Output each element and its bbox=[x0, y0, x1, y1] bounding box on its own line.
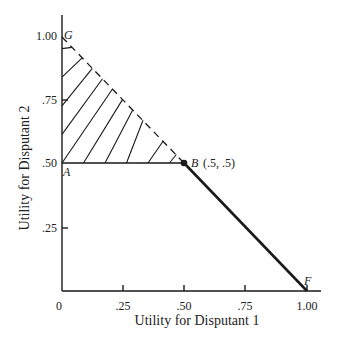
dashed-line-G-B bbox=[62, 37, 184, 163]
point-label-G: G bbox=[64, 28, 73, 42]
x-axis-title: Utility for Disputant 1 bbox=[135, 313, 260, 328]
y-tick-025: .25 bbox=[42, 221, 57, 235]
utility-chart: 0 .25 .50 .75 1.00 .25 .50 .75 1.00 G A … bbox=[0, 0, 341, 339]
x-tick-0: 0 bbox=[56, 299, 62, 313]
y-tick-100: 1.00 bbox=[36, 29, 57, 43]
hatch-region bbox=[62, 47, 176, 163]
x-tick-050: .50 bbox=[177, 299, 192, 313]
thick-line-B-F bbox=[184, 163, 307, 291]
y-axis-title: Utility for Disputant 2 bbox=[17, 106, 32, 231]
point-B-marker bbox=[181, 160, 188, 167]
y-tick-075: .75 bbox=[42, 93, 57, 107]
point-label-A: A bbox=[62, 165, 71, 179]
point-label-B: B bbox=[191, 156, 199, 170]
point-B-coordinates: (.5, .5) bbox=[203, 156, 235, 170]
x-tick-025: .25 bbox=[116, 299, 131, 313]
x-tick-100: 1.00 bbox=[297, 299, 318, 313]
x-tick-075: .75 bbox=[238, 299, 253, 313]
y-tick-050: .50 bbox=[42, 156, 57, 170]
point-label-F: F bbox=[303, 274, 312, 288]
axes bbox=[62, 15, 321, 291]
